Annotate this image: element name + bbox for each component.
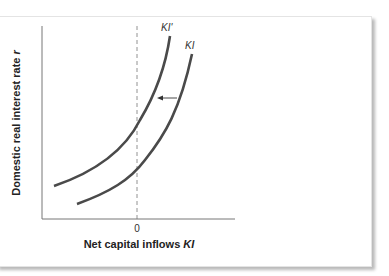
curve-ki-prime	[54, 36, 170, 186]
x-tick-zero: 0	[132, 223, 142, 234]
chart-plot	[0, 0, 389, 276]
curve-label-ki-prime: KI'	[161, 22, 172, 33]
arrow-head-icon	[157, 96, 163, 101]
curve-label-ki: KI	[185, 40, 194, 51]
x-axis-label: Net capital inflows KI	[42, 238, 236, 250]
y-axis-label: Domestic real interest rate r	[4, 26, 28, 220]
